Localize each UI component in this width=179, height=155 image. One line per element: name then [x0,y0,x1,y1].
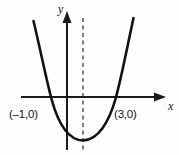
right-intercept-label: (3,0) [114,108,137,120]
left-intercept-label: (–1,0) [9,108,38,120]
parabola-figure: y x (–1,0) (3,0) [0,0,179,155]
x-axis-label: x [167,99,174,113]
y-axis-arrowhead [63,11,72,23]
x-axis-arrowhead [154,93,166,102]
y-axis-label: y [57,2,64,16]
plot-canvas: y x (–1,0) (3,0) [0,0,179,155]
